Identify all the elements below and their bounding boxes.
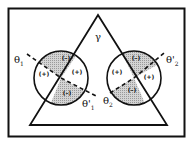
right-region-left-sign: (+) — [112, 69, 123, 75]
right-region-top-sign: (–) — [132, 55, 140, 61]
label-theta1: θ1 — [14, 55, 24, 67]
right-region-bottom-sign: (–) — [128, 87, 136, 93]
right-region-right-sign: (+) — [144, 74, 155, 80]
left-region-bottom-sign: (–) — [63, 90, 71, 96]
left-region-top-sign: (–) — [62, 55, 70, 61]
label-theta2: θ2 — [103, 96, 113, 108]
left-region-right-sign: (+) — [72, 69, 83, 75]
left-region-left-sign: (+) — [39, 71, 50, 77]
apex-label-gamma: γ — [95, 32, 101, 42]
label-theta1-prime: θ'1 — [82, 99, 95, 111]
diagram-canvas — [0, 0, 192, 146]
label-theta2-prime: θ'2 — [166, 55, 179, 67]
